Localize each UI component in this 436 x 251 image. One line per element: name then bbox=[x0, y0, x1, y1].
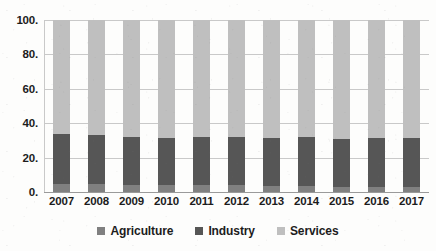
bar-stack[interactable] bbox=[228, 20, 245, 192]
bar-segment-agriculture[interactable] bbox=[298, 186, 315, 192]
bar-segment-services[interactable] bbox=[158, 20, 175, 138]
bar-segment-industry[interactable] bbox=[298, 137, 315, 186]
x-tick-label-2010: 2010 bbox=[149, 195, 184, 207]
y-tick-label-0: 0. bbox=[0, 186, 38, 198]
bar-segment-agriculture[interactable] bbox=[333, 187, 350, 193]
bar-stack[interactable] bbox=[403, 20, 420, 192]
bar-stack[interactable] bbox=[88, 20, 105, 192]
x-tick-label-2007: 2007 bbox=[44, 195, 79, 207]
x-tick-label-2014: 2014 bbox=[289, 195, 324, 207]
bar-segment-industry[interactable] bbox=[123, 137, 140, 185]
bar-segment-services[interactable] bbox=[298, 20, 315, 137]
legend-label: Agriculture bbox=[110, 224, 173, 238]
bar-slot bbox=[79, 20, 114, 192]
x-axis-labels: 2007200820092010201120122013201420152016… bbox=[44, 195, 429, 207]
bar-stack[interactable] bbox=[368, 20, 385, 192]
bar-segment-industry[interactable] bbox=[88, 135, 105, 184]
bar-segment-services[interactable] bbox=[263, 20, 280, 138]
x-tick-label-2012: 2012 bbox=[219, 195, 254, 207]
x-tick-label-2015: 2015 bbox=[324, 195, 359, 207]
bar-stack[interactable] bbox=[123, 20, 140, 192]
bar-segment-services[interactable] bbox=[403, 20, 420, 138]
y-tick-label-100: 100. bbox=[0, 14, 38, 26]
bar-slot bbox=[114, 20, 149, 192]
bar-segment-industry[interactable] bbox=[193, 137, 210, 186]
bar-segment-agriculture[interactable] bbox=[368, 187, 385, 193]
bar-slot bbox=[44, 20, 79, 192]
bar-segment-services[interactable] bbox=[193, 20, 210, 137]
bar-segment-agriculture[interactable] bbox=[228, 185, 245, 192]
y-tick-label-60: 60. bbox=[0, 83, 38, 95]
bar-segment-services[interactable] bbox=[333, 20, 350, 139]
bar-segment-agriculture[interactable] bbox=[193, 185, 210, 192]
bar-slot bbox=[324, 20, 359, 192]
bars-layer bbox=[44, 20, 429, 192]
legend-swatch-agriculture-icon bbox=[97, 227, 105, 235]
bar-slot bbox=[359, 20, 394, 192]
x-tick-label-2013: 2013 bbox=[254, 195, 289, 207]
bar-segment-industry[interactable] bbox=[228, 137, 245, 185]
bar-slot bbox=[219, 20, 254, 192]
bar-segment-services[interactable] bbox=[53, 20, 70, 134]
bar-segment-industry[interactable] bbox=[158, 138, 175, 185]
bar-segment-industry[interactable] bbox=[263, 138, 280, 186]
legend-label: Industry bbox=[208, 224, 255, 238]
bar-stack[interactable] bbox=[193, 20, 210, 192]
legend-swatch-services-icon bbox=[277, 227, 285, 235]
bar-slot bbox=[289, 20, 324, 192]
bar-stack[interactable] bbox=[158, 20, 175, 192]
chart-legend: AgricultureIndustryServices bbox=[0, 224, 436, 238]
bar-stack[interactable] bbox=[263, 20, 280, 192]
x-tick-label-2008: 2008 bbox=[79, 195, 114, 207]
bar-segment-services[interactable] bbox=[123, 20, 140, 137]
plot-area bbox=[44, 20, 429, 192]
bar-segment-services[interactable] bbox=[368, 20, 385, 138]
bar-slot bbox=[184, 20, 219, 192]
legend-item-services[interactable]: Services bbox=[277, 224, 339, 238]
bar-segment-agriculture[interactable] bbox=[263, 186, 280, 192]
bar-segment-services[interactable] bbox=[228, 20, 245, 137]
bar-segment-industry[interactable] bbox=[333, 139, 350, 187]
x-tick-label-2017: 2017 bbox=[394, 195, 429, 207]
bar-stack[interactable] bbox=[53, 20, 70, 192]
bar-segment-agriculture[interactable] bbox=[53, 184, 70, 192]
gridline-0 bbox=[44, 192, 429, 193]
bar-stack[interactable] bbox=[298, 20, 315, 192]
bar-segment-industry[interactable] bbox=[368, 138, 385, 186]
bar-segment-services[interactable] bbox=[88, 20, 105, 135]
y-tick-label-80: 80. bbox=[0, 48, 38, 60]
bar-segment-agriculture[interactable] bbox=[88, 184, 105, 192]
bar-slot bbox=[254, 20, 289, 192]
legend-item-industry[interactable]: Industry bbox=[195, 224, 255, 238]
bar-segment-agriculture[interactable] bbox=[123, 185, 140, 192]
y-tick-label-20: 20. bbox=[0, 152, 38, 164]
bar-segment-agriculture[interactable] bbox=[158, 185, 175, 192]
bar-slot bbox=[394, 20, 429, 192]
legend-swatch-industry-icon bbox=[195, 227, 203, 235]
x-tick-label-2016: 2016 bbox=[359, 195, 394, 207]
bar-slot bbox=[149, 20, 184, 192]
legend-item-agriculture[interactable]: Agriculture bbox=[97, 224, 173, 238]
x-tick-label-2011: 2011 bbox=[184, 195, 219, 207]
bar-stack[interactable] bbox=[333, 20, 350, 192]
chart-container: 100.80.60.40.20.0. 200720082009201020112… bbox=[0, 0, 436, 251]
x-tick-label-2009: 2009 bbox=[114, 195, 149, 207]
bar-segment-agriculture[interactable] bbox=[403, 187, 420, 192]
bar-segment-industry[interactable] bbox=[403, 138, 420, 187]
legend-label: Services bbox=[290, 224, 339, 238]
bar-segment-industry[interactable] bbox=[53, 134, 70, 184]
y-tick-label-40: 40. bbox=[0, 117, 38, 129]
